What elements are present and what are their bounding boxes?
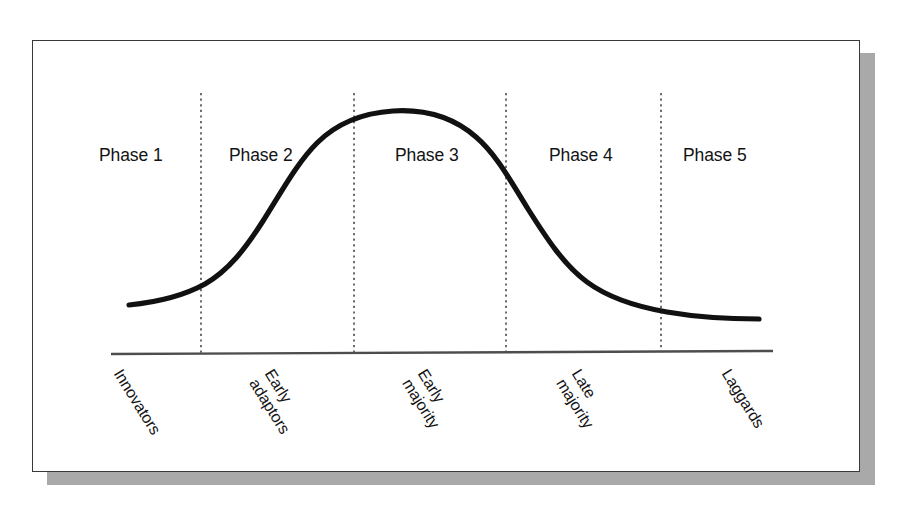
- diagram-card: Phase 1 Phase 2 Phase 3 Phase 4 Phase 5 …: [32, 40, 860, 472]
- adoption-bell-curve: [129, 111, 759, 319]
- phase-label-1[interactable]: Phase 1: [99, 145, 163, 166]
- phase-label-4[interactable]: Phase 4: [549, 145, 613, 166]
- phase-label-2[interactable]: Phase 2: [229, 145, 293, 166]
- x-axis-line: [111, 351, 773, 354]
- figure-canvas: Phase 1 Phase 2 Phase 3 Phase 4 Phase 5 …: [0, 0, 901, 513]
- phase-label-3[interactable]: Phase 3: [395, 145, 459, 166]
- phase-label-5[interactable]: Phase 5: [683, 145, 747, 166]
